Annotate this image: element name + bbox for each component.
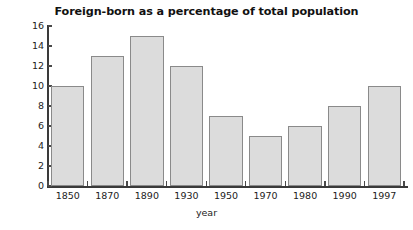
bar <box>130 36 163 186</box>
x-axis-tick-label: 1980 <box>285 190 325 201</box>
y-axis-tick-label: 2 <box>26 160 44 171</box>
x-axis-tick-label: 1890 <box>127 190 167 201</box>
bar <box>368 86 401 186</box>
bar <box>288 126 321 186</box>
bar <box>170 66 203 186</box>
plot-area <box>48 26 404 186</box>
bar <box>209 116 242 186</box>
bar <box>249 136 282 186</box>
x-axis-tick-label: 1930 <box>166 190 206 201</box>
y-axis-tick-label: 0 <box>26 180 44 191</box>
y-axis-tick-label: 10 <box>26 80 44 91</box>
y-axis-tick-label: 8 <box>26 100 44 111</box>
y-axis-tick-label: 12 <box>26 60 44 71</box>
x-axis-label: year <box>0 207 413 218</box>
y-axis-tick-label: 4 <box>26 140 44 151</box>
x-axis-tick-label: 1997 <box>364 190 404 201</box>
chart-figure: Foreign-born as a percentage of total po… <box>0 0 413 230</box>
y-axis-tick-label: 6 <box>26 120 44 131</box>
y-axis-tick-label: 16 <box>26 20 44 31</box>
bar <box>51 86 84 186</box>
x-axis-tick-label: 1990 <box>325 190 365 201</box>
page-title: Foreign-born as a percentage of total po… <box>0 5 413 18</box>
y-axis-tick-label: 14 <box>26 40 44 51</box>
x-axis-tick-label: 1970 <box>246 190 286 201</box>
x-axis-line <box>47 186 408 188</box>
x-axis-tick-label: 1850 <box>48 190 88 201</box>
bar <box>91 56 124 186</box>
x-axis-tick-label: 1870 <box>87 190 127 201</box>
x-axis-tick-label: 1950 <box>206 190 246 201</box>
bar <box>328 106 361 186</box>
